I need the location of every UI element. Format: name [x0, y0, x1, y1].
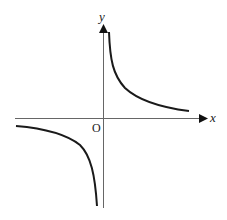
reciprocal-function-graph: x y O	[0, 0, 227, 220]
origin-label: O	[92, 121, 101, 135]
x-axis-arrow-icon	[199, 114, 208, 123]
x-axis-label: x	[209, 110, 216, 125]
y-axis-label: y	[97, 9, 105, 24]
third-quadrant-branch	[16, 126, 97, 206]
first-quadrant-branch	[109, 32, 189, 111]
y-axis-arrow-icon	[99, 24, 108, 33]
